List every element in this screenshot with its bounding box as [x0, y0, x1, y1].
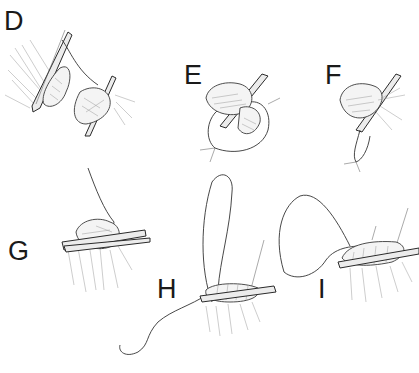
panel-label-f: F [325, 62, 342, 89]
panel-g-drawing [62, 168, 150, 292]
panel-label-e: E [184, 62, 202, 89]
panel-i-drawing [279, 195, 419, 302]
panel-d-drawing [5, 30, 135, 136]
panel-label-d: D [4, 8, 24, 35]
panel-h-drawing [120, 175, 276, 355]
panel-label-i: I [318, 276, 326, 303]
panel-e-drawing [200, 74, 280, 162]
panel-label-h: H [157, 276, 177, 303]
panel-label-g: G [8, 238, 29, 265]
illustration-art [0, 0, 419, 373]
panel-f-drawing [340, 74, 405, 172]
figure-canvas: D E F G H I [0, 0, 419, 373]
